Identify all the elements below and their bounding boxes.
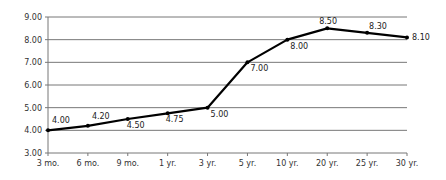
x-tick-label: 3 yr. (199, 159, 216, 168)
data-label: 8.10 (412, 33, 430, 42)
data-label: 8.00 (290, 42, 308, 51)
x-tick-label: 5 yr. (239, 159, 256, 168)
data-point-marker (206, 106, 210, 110)
x-tick-label: 9 mo. (116, 159, 139, 168)
y-axis: 3.004.005.006.007.008.009.00 (24, 13, 48, 158)
data-label: 4.00 (52, 116, 70, 125)
data-point-marker (86, 124, 90, 128)
x-tick-label: 6 mo. (77, 159, 100, 168)
data-label: 8.30 (369, 22, 387, 31)
y-tick-label: 6.00 (24, 81, 42, 90)
data-point-marker (245, 60, 249, 64)
data-label: 4.75 (166, 115, 184, 124)
x-tick-label: 3 mo. (37, 159, 60, 168)
y-tick-label: 5.00 (24, 104, 42, 113)
x-tick-label: 1 yr. (159, 159, 176, 168)
data-point-marker (46, 128, 50, 132)
x-tick-label: 25 yr. (356, 159, 379, 168)
data-point-marker (285, 38, 289, 42)
x-tick-label: 30 yr. (396, 159, 419, 168)
y-tick-label: 3.00 (24, 149, 42, 158)
data-point-marker (365, 31, 369, 35)
line-chart: 3.004.005.006.007.008.009.00 3 mo.6 mo.9… (0, 0, 446, 180)
data-label: 4.50 (127, 121, 145, 130)
data-point-marker (405, 35, 409, 39)
data-label: 7.00 (250, 64, 268, 73)
x-tick-label: 10 yr. (276, 159, 299, 168)
y-tick-label: 9.00 (24, 13, 42, 22)
data-point-marker (325, 26, 329, 30)
x-tick-label: 20 yr. (316, 159, 339, 168)
data-label: 4.20 (92, 112, 110, 121)
y-tick-label: 8.00 (24, 36, 42, 45)
x-axis: 3 mo.6 mo.9 mo.1 yr.3 yr.5 yr.10 yr.20 y… (37, 153, 419, 168)
data-label: 8.50 (319, 17, 337, 26)
data-label: 5.00 (211, 110, 229, 119)
y-tick-label: 7.00 (24, 58, 42, 67)
y-tick-label: 4.00 (24, 126, 42, 135)
